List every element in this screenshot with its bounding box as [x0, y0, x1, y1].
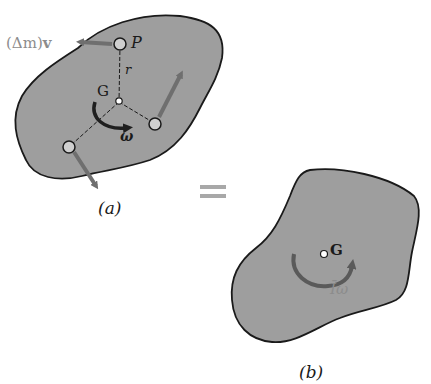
momentum-mass-text: (Δm) [6, 34, 43, 52]
rigid-body-momentum-diagram: (Δm)v P r G ω (a) G Īω (b) [0, 0, 431, 384]
equals-sign-bottom [200, 194, 226, 198]
angular-momentum-label: Īω [330, 282, 348, 297]
particle-p [114, 38, 126, 50]
velocity-vector-text: v [43, 34, 52, 52]
center-label-a: G [97, 84, 109, 99]
omega-label: ω [120, 129, 133, 143]
center-of-mass-b [321, 251, 328, 258]
caption-a: (a) [98, 200, 121, 217]
particle-left [63, 141, 75, 153]
diagram-graphics [0, 0, 431, 384]
center-label-b: G [330, 243, 343, 258]
point-p-label: P [131, 35, 142, 51]
equals-sign-top [200, 185, 226, 189]
caption-b: (b) [299, 364, 323, 381]
radius-label: r [125, 63, 131, 76]
center-of-mass-a [116, 98, 122, 104]
momentum-vector-p [80, 42, 112, 44]
particle-right [149, 118, 161, 130]
momentum-label: (Δm)v [6, 36, 51, 51]
